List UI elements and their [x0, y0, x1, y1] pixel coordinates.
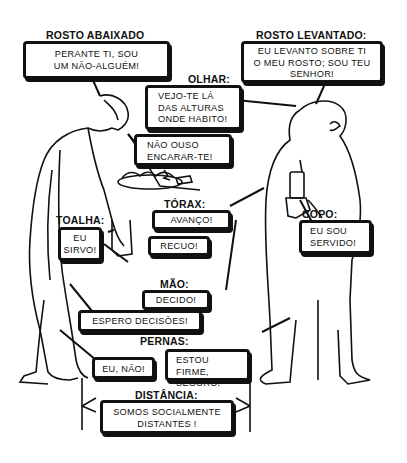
bubble-toalha: EU SIRVO!: [58, 227, 102, 261]
label-pernas: PERNAS:: [140, 335, 189, 347]
label-copo: COPO:: [302, 208, 337, 220]
bubble-pernas-eu-nao: EU, NÃO!: [92, 357, 155, 379]
bubble-olhar: VEJO-TE LÁ DAS ALTURAS ONDE HABITO!: [145, 85, 242, 130]
bubble-mao-decido: DECIDO!: [142, 290, 210, 310]
label-mao: MÃO:: [160, 278, 189, 290]
bubble-recuo: RECUO!: [148, 236, 210, 256]
label-rosto-levantado: ROSTO LEVANTADO:: [256, 29, 367, 41]
bubble-rosto-abaixado: PERANTE TI, SOU UM NÃO-ALGUÉM!: [23, 41, 170, 79]
label-torax: TÓRAX:: [164, 198, 205, 210]
label-rosto-abaixado: ROSTO ABAIXADO: [46, 29, 144, 41]
label-toalha: TOALHA:: [56, 214, 104, 226]
tray: [118, 170, 192, 189]
bubble-copo: EU SOU SERVIDO!: [299, 220, 372, 254]
label-olhar: OLHAR:: [188, 73, 230, 85]
bubble-torax-avanco: AVANÇO!: [152, 210, 231, 230]
bubble-espero: ESPERO DECISÕES!: [78, 310, 202, 332]
bubble-distancia: SOMOS SOCIALMENTE DISTANTES !: [100, 400, 234, 434]
bubble-rosto-levantado: EU LEVANTO SOBRE TI O MEU ROSTO; SOU TEU…: [241, 41, 383, 83]
bubble-pernas-firme: ESTOU FIRME, SEGURO!: [165, 349, 250, 381]
bubble-encarar: NÃO OUSO ENCARAR-TE!: [134, 134, 232, 166]
